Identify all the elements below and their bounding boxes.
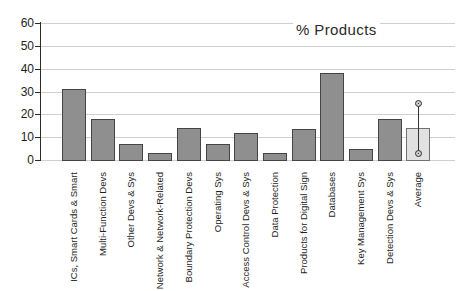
bar [177, 128, 201, 161]
x-label-text: Detection Devs & Sys [385, 172, 395, 264]
x-label-text: Data Protection [270, 172, 280, 237]
bar [263, 153, 287, 161]
x-label-text: Boundary Protection Devs [184, 172, 194, 282]
x-label-text: Multi-Function Devs [98, 172, 108, 256]
bar [148, 153, 172, 161]
gridline [41, 92, 455, 93]
bar [378, 119, 402, 161]
bar-chart: % Products 0102030405060ICs, Smart Cards… [0, 0, 465, 291]
bar [62, 89, 86, 161]
gridline [41, 46, 455, 47]
bar [234, 133, 258, 161]
x-label-text: Other Devs & Sys [126, 172, 136, 248]
bar [91, 119, 115, 161]
y-tick-label: 20 [4, 107, 34, 121]
y-tick-label: 60 [4, 16, 34, 30]
y-tick-label: 30 [4, 85, 34, 99]
y-tick-label: 10 [4, 130, 34, 144]
error-bar-line [418, 103, 419, 153]
x-label-text: Average [413, 172, 423, 207]
y-tick-label: 40 [4, 62, 34, 76]
bar [119, 144, 143, 161]
gridline [41, 69, 455, 70]
bar [206, 144, 230, 161]
x-label-text: Key Management Sys [356, 172, 366, 265]
x-label-text: Access Control Devs & Sys [241, 172, 251, 288]
bar [349, 149, 373, 161]
error-bar-cap-high [415, 100, 422, 107]
gridline [41, 23, 455, 24]
bar [292, 129, 316, 161]
x-label-text: Databases [327, 172, 337, 217]
x-label-text: Operating Sys [213, 172, 223, 232]
bar [320, 73, 344, 161]
y-axis-line [40, 22, 41, 161]
y-tick-label: 0 [4, 153, 34, 167]
x-label-text: Products for Digital Sign [299, 172, 309, 274]
chart-title: % Products [293, 21, 380, 38]
gridline [41, 114, 455, 115]
x-label-text: ICs, Smart Cards & Smart [69, 172, 79, 282]
x-label-text: Network & Network-Related [155, 172, 165, 289]
y-tick-label: 50 [4, 39, 34, 53]
